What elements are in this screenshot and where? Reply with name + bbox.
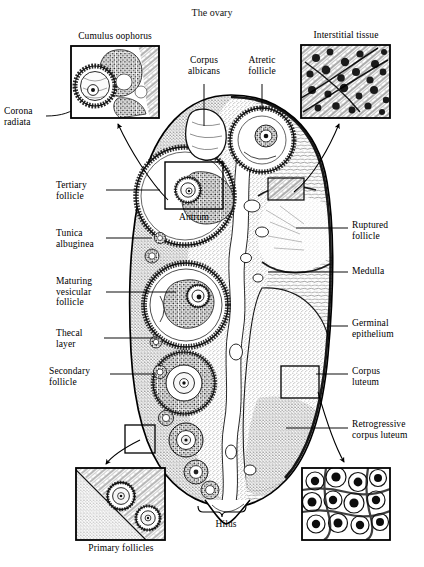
figure-canvas: The ovary Cumulus oophorus Interstitial … xyxy=(0,0,424,567)
label-maturing-vesicular-follicle: Maturing vesicular follicle xyxy=(56,276,92,308)
secondary-follicle xyxy=(153,352,215,414)
label-corpus-luteum: Corpus luteum xyxy=(352,366,380,387)
label-ruptured-follicle: Ruptured follicle xyxy=(352,220,388,241)
inset-caption-cumulus-oophorus: Cumulus oophorus xyxy=(55,31,175,42)
atretic-follicle xyxy=(230,108,294,172)
label-medulla: Medulla xyxy=(352,266,384,277)
label-secondary-follicle: Secondary follicle xyxy=(49,366,90,387)
label-hilus: Hilus xyxy=(196,519,256,530)
label-thecal-layer: Thecal layer xyxy=(56,328,82,349)
label-atretic-follicle: Atretic follicle xyxy=(237,55,287,76)
corpus-albicans xyxy=(186,109,227,160)
figure-title: The ovary xyxy=(0,7,424,18)
label-antrum: Antrum xyxy=(155,212,233,223)
label-corona-radiata: Corona radiata xyxy=(4,106,33,127)
label-tunica-albuginea: Tunica albuginea xyxy=(56,228,94,249)
inset-corpus-luteum-cells[interactable] xyxy=(302,467,390,540)
arrow-to-primary-inset xyxy=(106,440,140,464)
label-retrogressive-corpus-luteum: Retrogressive corpus luteum xyxy=(352,419,424,440)
label-corpus-albicans: Corpus albicans xyxy=(178,55,230,76)
maturing-vesicular-follicle xyxy=(144,263,228,347)
inset-cumulus-oophorus[interactable] xyxy=(71,46,159,118)
inset-caption-primary-follicles: Primary follicles xyxy=(65,543,177,554)
label-germinal-epithelium: Germinal epithelium xyxy=(352,318,394,339)
inset-interstitial-tissue[interactable] xyxy=(301,45,390,118)
label-tertiary-follicle: Tertiary follicle xyxy=(56,180,87,201)
inset-primary-follicles[interactable] xyxy=(76,468,165,540)
inset-caption-interstitial-tissue: Interstitial tissue xyxy=(293,30,399,41)
interstitial-tissue-region xyxy=(268,178,304,200)
